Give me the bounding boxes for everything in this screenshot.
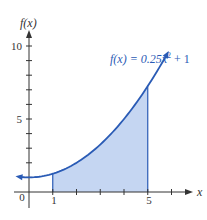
- shaded-area: [53, 86, 148, 192]
- function-equation-label: f(x) = 0.25x2 + 1: [110, 51, 190, 66]
- x-tick-label-1: 1: [51, 194, 57, 206]
- origin-label: 0: [19, 191, 25, 203]
- chart-area: 0 1 5 5 10 x f(x) f(x) = 0.25x2 + 1: [0, 0, 207, 220]
- x-axis-arrow-icon: [185, 189, 193, 195]
- y-axis-label: f(x): [20, 16, 37, 30]
- equation-prefix: f(x) = 0.25x: [110, 52, 168, 66]
- x-tick-label-5: 5: [146, 194, 152, 206]
- y-tick-label-10: 10: [11, 40, 23, 52]
- curve-left-arrow-icon: [16, 174, 23, 180]
- y-axis-arrow-icon: [26, 30, 32, 38]
- y-tick-label-5: 5: [17, 113, 23, 125]
- equation-suffix: + 1: [171, 52, 190, 66]
- x-axis-label: x: [196, 185, 203, 199]
